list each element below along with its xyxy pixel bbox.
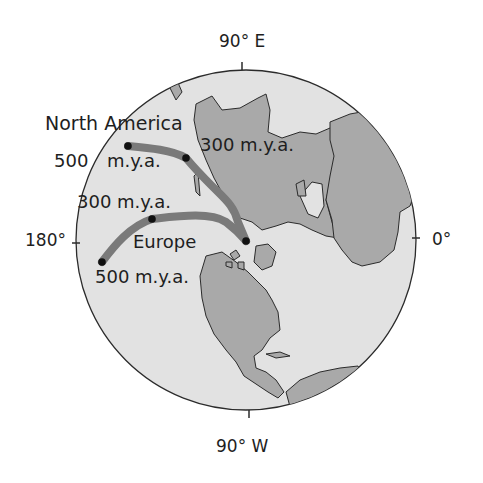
point-eu-300 — [148, 215, 156, 223]
axis-label-bottom: 90° W — [216, 438, 268, 455]
label-na-500: 500 — [54, 152, 88, 170]
label-na-300: 300 m.y.a. — [200, 136, 294, 154]
point-present — [242, 237, 250, 245]
point-na-500 — [124, 142, 132, 150]
polar-wander-map — [0, 0, 483, 483]
point-eu-500 — [98, 258, 106, 266]
axis-label-left: 180° — [25, 232, 66, 249]
label-na-500-suffix: m.y.a. — [107, 152, 161, 170]
point-na-300 — [182, 154, 190, 162]
axis-label-right: 0° — [432, 231, 451, 248]
label-north-america: North America — [45, 114, 183, 133]
label-eu-300: 300 m.y.a. — [77, 193, 171, 211]
label-europe: Europe — [133, 233, 196, 251]
axis-label-top: 90° E — [219, 33, 265, 50]
label-eu-500: 500 m.y.a. — [95, 268, 189, 286]
